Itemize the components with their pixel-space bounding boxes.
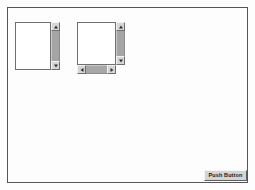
scrolled-window-both[interactable] <box>77 22 125 74</box>
viewport-content-area[interactable] <box>77 22 116 65</box>
triangle-up-glyph <box>119 25 123 28</box>
scroll-right-arrow-icon[interactable] <box>107 65 116 74</box>
triangle-up-glyph <box>54 25 58 28</box>
triangle-left-glyph <box>80 68 83 72</box>
triangle-down-glyph <box>119 59 123 62</box>
viewport-content-area[interactable] <box>15 22 51 70</box>
triangle-right-glyph <box>110 68 113 72</box>
scroll-up-arrow-icon[interactable] <box>116 22 125 31</box>
dialog-frame <box>7 7 248 183</box>
scroll-down-arrow-icon[interactable] <box>116 56 125 65</box>
scroll-up-arrow-icon[interactable] <box>51 22 60 31</box>
push-button[interactable]: Push Button <box>204 170 247 181</box>
application-window: Push Button <box>0 0 255 190</box>
scrolled-window-vertical[interactable] <box>15 22 60 70</box>
scroll-left-arrow-icon[interactable] <box>77 65 86 74</box>
scroll-down-arrow-icon[interactable] <box>51 61 60 70</box>
triangle-down-glyph <box>54 64 58 67</box>
scrollbar-corner <box>116 65 125 74</box>
